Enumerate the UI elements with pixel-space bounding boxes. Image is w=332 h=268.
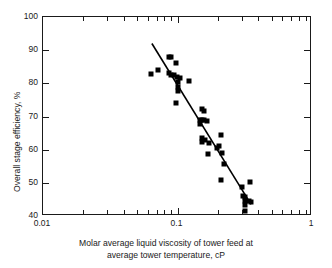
y-tick-major (43, 83, 49, 84)
y-tick-major-right (304, 50, 310, 51)
y-tick-major (43, 150, 49, 151)
x-tick-minor-top (137, 17, 138, 21)
y-tick-label: 50 (16, 178, 38, 187)
y-tick-major-right (304, 183, 310, 184)
x-tick-minor (124, 210, 125, 214)
x-tick-minor-top (306, 17, 307, 21)
data-point (247, 180, 252, 185)
x-tick-minor (291, 210, 292, 214)
x-tick-major-top (178, 17, 179, 23)
x-tick-minor-top (83, 17, 84, 21)
x-tick-minor-top (164, 17, 165, 21)
x-tick-label: 1 (309, 219, 314, 228)
x-tick-minor-top (272, 17, 273, 21)
data-point (221, 162, 226, 167)
y-tick-label: 60 (16, 144, 38, 153)
y-tick-major (43, 50, 49, 51)
x-tick-minor-top (157, 17, 158, 21)
x-tick-minor (272, 210, 273, 214)
x-tick-label: 0.1 (171, 219, 183, 228)
y-tick-label: 80 (16, 78, 38, 87)
x-tick-minor-top (124, 17, 125, 21)
x-tick-minor (282, 210, 283, 214)
y-tick-major-right (304, 83, 310, 84)
x-axis-title-line-2: average tower temperature, cP (0, 250, 332, 262)
y-tick-major (43, 117, 49, 118)
data-point (187, 79, 192, 84)
x-tick-minor (148, 210, 149, 214)
x-tick-minor (171, 210, 172, 214)
data-point (202, 108, 207, 113)
x-axis-title-line-1: Molar average liquid viscosity of tower … (0, 238, 332, 250)
data-point (207, 141, 212, 146)
y-tick-label: 40 (16, 211, 38, 220)
data-point (174, 61, 179, 66)
x-tick-minor-top (282, 17, 283, 21)
y-tick-major-right (304, 117, 310, 118)
x-tick-minor (299, 210, 300, 214)
data-point (176, 88, 181, 93)
data-point (169, 55, 174, 60)
x-tick-label: 0.01 (34, 219, 51, 228)
plot-area (42, 16, 311, 215)
x-tick-minor (164, 210, 165, 214)
data-point (219, 177, 224, 182)
data-point (204, 119, 209, 124)
y-tick-label: 70 (16, 111, 38, 120)
data-layer (43, 17, 310, 214)
x-tick-minor (258, 210, 259, 214)
data-point (198, 122, 203, 127)
x-tick-minor (306, 210, 307, 214)
data-point (239, 184, 244, 189)
x-tick-minor-top (291, 17, 292, 21)
data-point (149, 72, 154, 77)
x-tick-minor-top (242, 17, 243, 21)
data-point (243, 203, 248, 208)
x-tick-minor (157, 210, 158, 214)
data-point (214, 146, 219, 151)
data-point (248, 200, 253, 205)
x-tick-minor-top (107, 17, 108, 21)
x-tick-minor-top (299, 17, 300, 21)
data-point (243, 208, 248, 213)
data-point (218, 133, 223, 138)
x-tick-minor (242, 210, 243, 214)
y-tick-label: 90 (16, 45, 38, 54)
x-tick-minor-top (218, 17, 219, 21)
data-point (199, 140, 204, 145)
y-tick-label: 100 (16, 12, 38, 21)
data-point (174, 100, 179, 105)
data-point (220, 150, 225, 155)
x-tick-minor (137, 210, 138, 214)
y-tick-major (43, 183, 49, 184)
chart-figure: Overall stage efficiency, % Molar averag… (0, 0, 332, 268)
x-tick-minor-top (171, 17, 172, 21)
x-tick-major (178, 208, 179, 214)
x-tick-minor (107, 210, 108, 214)
x-tick-minor (83, 210, 84, 214)
trend-line (43, 17, 310, 214)
x-axis-title: Molar average liquid viscosity of tower … (0, 238, 332, 261)
x-tick-minor-top (258, 17, 259, 21)
x-tick-minor (218, 210, 219, 214)
y-tick-major-right (304, 150, 310, 151)
data-point (205, 152, 210, 157)
x-tick-minor-top (148, 17, 149, 21)
data-point (156, 68, 161, 73)
